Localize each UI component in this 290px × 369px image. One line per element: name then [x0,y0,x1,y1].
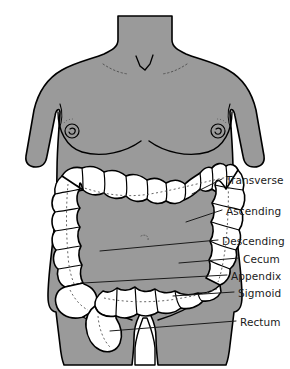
label-ascending: Ascending [226,206,281,217]
leg-gap [135,318,155,365]
anatomy-diagram: Transverse Ascending Descending Cecum Ap… [0,0,290,369]
label-descending: Descending [222,236,285,247]
label-cecum: Cecum [243,254,280,265]
label-sigmoid: Sigmoid [238,288,281,299]
label-appendix: Appendix [231,271,281,282]
label-transverse: Transverse [226,175,284,186]
label-rectum: Rectum [240,317,281,328]
